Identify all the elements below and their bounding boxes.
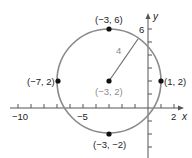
radius-line [109, 39, 138, 81]
x-tick-label-2: 2 [171, 111, 176, 122]
right-point-label: (1, 2) [164, 76, 186, 87]
x-axis-label: x [181, 111, 188, 122]
circle-graph: −10 −5 2 x 6 y 4 (−3, 2) (−3, 6) (−3, −2… [0, 0, 192, 158]
center-label: (−3, 2) [95, 86, 123, 97]
left-point-label: (−7, 2) [27, 76, 55, 87]
x-axis-ticks [18, 104, 174, 108]
bottom-point-label: (−3, −2) [93, 139, 126, 150]
y-axis-label: y [152, 11, 159, 22]
x-tick-label-neg5: −5 [77, 111, 88, 122]
y-tick-label-6: 6 [139, 24, 144, 35]
top-point-label: (−3, 6) [95, 14, 123, 25]
y-axis-arrow-icon [146, 13, 151, 19]
x-axis-arrow-icon [178, 106, 184, 111]
bottom-point [106, 131, 111, 136]
x-tick-label-neg10: −10 [12, 111, 28, 122]
x-axis: −10 −5 2 x [10, 104, 188, 122]
top-point [106, 26, 111, 31]
center-point [106, 78, 111, 83]
right-point [158, 78, 163, 83]
left-point [55, 78, 60, 83]
radius-label: 4 [116, 45, 121, 56]
y-axis: 6 y [139, 11, 159, 158]
